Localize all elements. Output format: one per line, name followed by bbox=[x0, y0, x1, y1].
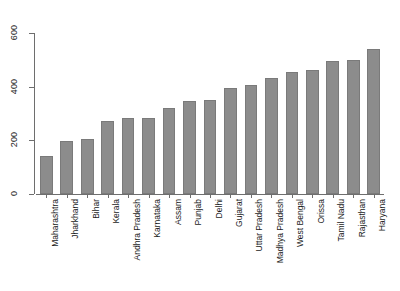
bar bbox=[183, 101, 196, 194]
x-axis-label-text: Delhi bbox=[214, 199, 224, 218]
x-axis-tick bbox=[312, 194, 313, 198]
y-axis-tick-label: 200 bbox=[0, 135, 27, 145]
x-axis-tick bbox=[292, 194, 293, 198]
x-axis-tick bbox=[230, 194, 231, 198]
y-axis-tick-label: 400 bbox=[0, 82, 27, 92]
x-axis-tick bbox=[46, 194, 47, 198]
bar bbox=[367, 49, 380, 194]
x-axis-tick bbox=[353, 194, 354, 198]
y-axis-tick bbox=[29, 87, 34, 88]
x-axis-label-text: Rajasthan bbox=[357, 199, 367, 237]
x-axis-tick bbox=[333, 194, 334, 198]
x-axis-tick bbox=[87, 194, 88, 198]
x-axis-label-text: Orissa bbox=[316, 199, 326, 224]
x-axis-label-text: Karnataka bbox=[152, 199, 162, 238]
x-axis-tick bbox=[271, 194, 272, 198]
x-axis-label-text: Tamil Nadu bbox=[336, 199, 346, 242]
x-axis-label-text: West Bengal bbox=[295, 199, 305, 247]
x-axis-label-text: Assam bbox=[173, 199, 183, 225]
x-axis-label-text: Andhra Pradesh bbox=[132, 199, 142, 260]
bar bbox=[163, 108, 176, 194]
x-axis-tick bbox=[128, 194, 129, 198]
plot-area bbox=[36, 33, 384, 194]
bar bbox=[286, 72, 299, 194]
y-axis-tick-label-text: 600 bbox=[10, 20, 19, 46]
x-axis-tick bbox=[210, 194, 211, 198]
y-axis-tick bbox=[29, 140, 34, 141]
y-axis-tick-label-text: 0 bbox=[10, 181, 19, 207]
x-axis-label-text: Madhya Pradesh bbox=[275, 199, 285, 263]
y-axis-tick-label: 0 bbox=[0, 189, 27, 199]
x-axis-tick bbox=[67, 194, 68, 198]
y-axis-tick-label: 600 bbox=[0, 28, 27, 38]
x-axis-label-text: Uttar Pradesh bbox=[254, 199, 264, 251]
x-axis-tick bbox=[149, 194, 150, 198]
y-axis-tick bbox=[29, 194, 34, 195]
bar bbox=[306, 70, 319, 194]
bar bbox=[142, 118, 155, 194]
x-axis-label-text: Kerala bbox=[111, 199, 121, 224]
bar bbox=[245, 85, 258, 194]
bar bbox=[326, 61, 339, 194]
bar-chart: 0200400600 MaharashtraJharkhandBiharKera… bbox=[0, 0, 400, 291]
x-axis-label-text: Jharkhand bbox=[70, 199, 80, 239]
bar bbox=[265, 78, 278, 194]
bar bbox=[224, 88, 237, 194]
x-axis-tick bbox=[108, 194, 109, 198]
x-axis-label-text: Maharashtra bbox=[50, 199, 60, 247]
bar bbox=[81, 139, 94, 194]
x-axis-label-text: Gujarat bbox=[234, 199, 244, 227]
y-axis-tick bbox=[29, 33, 34, 34]
x-axis-tick bbox=[190, 194, 191, 198]
x-axis-tick bbox=[374, 194, 375, 198]
y-axis-line bbox=[34, 33, 35, 194]
y-axis-tick-label-text: 200 bbox=[10, 127, 19, 153]
bar bbox=[40, 156, 53, 194]
x-axis-label-text: Bihar bbox=[91, 199, 101, 219]
bar bbox=[60, 141, 73, 194]
bar bbox=[122, 118, 135, 194]
bar bbox=[101, 121, 114, 194]
bar bbox=[347, 60, 360, 194]
x-axis-tick bbox=[169, 194, 170, 198]
bar bbox=[204, 100, 217, 194]
x-axis-label-text: Haryana bbox=[377, 199, 387, 231]
y-axis-tick-label-text: 400 bbox=[10, 73, 19, 99]
x-axis-tick bbox=[251, 194, 252, 198]
x-axis-label-text: Punjab bbox=[193, 199, 203, 225]
